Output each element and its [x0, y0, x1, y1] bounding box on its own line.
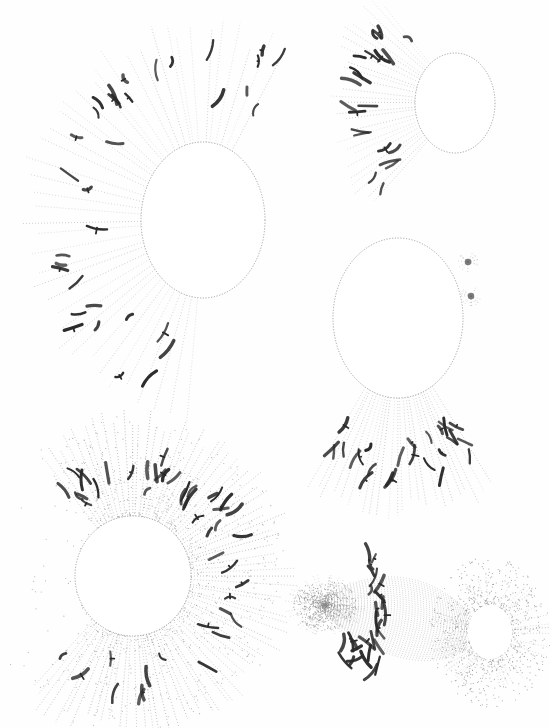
stipple-dot	[474, 591, 475, 592]
stipple-dot	[327, 618, 328, 619]
spindle-fiber	[40, 138, 146, 187]
stipple-dot	[187, 615, 188, 616]
stipple-dot	[471, 700, 472, 701]
stipple-dot	[171, 506, 172, 507]
stipple-dot	[313, 603, 314, 604]
stipple-dot	[533, 639, 534, 640]
spindle-fiber	[62, 265, 152, 328]
stipple-dot	[234, 576, 235, 577]
stipple-dot	[253, 587, 254, 588]
stipple-dot	[240, 485, 241, 486]
chromosome	[60, 653, 66, 658]
nucleus-outline	[415, 53, 495, 153]
stipple-dot	[542, 661, 543, 662]
stipple-dot	[503, 659, 504, 660]
spindle-fiber	[384, 6, 430, 64]
stipple-dot	[304, 603, 305, 604]
stipple-dot	[238, 599, 239, 600]
stipple-dot	[498, 696, 499, 697]
stipple-dot	[516, 605, 517, 606]
stipple-dot	[482, 675, 483, 676]
stipple-dot	[463, 608, 464, 609]
stipple-dot	[247, 642, 248, 643]
stipple-dot	[101, 467, 102, 468]
chromosome	[439, 468, 443, 486]
stipple-dot	[66, 446, 67, 447]
stipple-dot	[446, 650, 447, 651]
stipple-dot	[468, 642, 469, 643]
stipple-dot	[168, 716, 169, 717]
stipple-dot	[213, 594, 214, 595]
stipple-dot	[107, 633, 108, 634]
stipple-dot	[516, 619, 517, 620]
chromosome	[58, 483, 69, 497]
stipple-dot	[297, 594, 298, 595]
stipple-dot	[172, 493, 173, 494]
stipple-dot	[276, 591, 277, 592]
stipple-dot	[72, 460, 73, 461]
stipple-dot	[513, 624, 514, 625]
stipple-dot	[446, 674, 447, 675]
stipple-dot	[485, 694, 486, 695]
stipple-dot	[474, 598, 475, 599]
stipple-dot	[219, 597, 220, 598]
stipple-dot	[469, 611, 470, 612]
stipple-dot	[474, 586, 475, 587]
stipple-dot	[536, 662, 537, 663]
stipple-dot	[234, 515, 235, 516]
spindle-fiber	[498, 581, 512, 607]
stipple-dot	[252, 662, 253, 663]
stipple-dot	[206, 586, 207, 587]
stipple-dot	[471, 701, 472, 702]
stipple-dot	[67, 540, 68, 541]
stipple-dot	[212, 647, 213, 648]
stipple-dot	[502, 603, 503, 604]
stipple-dot	[309, 590, 310, 591]
stipple-dot	[212, 613, 213, 614]
stipple-dot	[117, 635, 118, 636]
stipple-dot	[119, 685, 120, 686]
stipple-dot	[198, 547, 199, 548]
stipple-dot	[514, 649, 515, 650]
stipple-dot	[518, 567, 519, 568]
stipple-dot	[333, 597, 334, 598]
stipple-dot	[310, 627, 311, 628]
stipple-dot	[470, 665, 471, 666]
stipple-dot	[305, 609, 306, 610]
stipple-dot	[197, 699, 198, 700]
stipple-dot	[483, 668, 484, 669]
stipple-dot	[116, 416, 117, 417]
stipple-dot	[521, 609, 522, 610]
stipple-dot	[316, 609, 317, 610]
stipple-dot	[81, 540, 82, 541]
stipple-dot	[86, 613, 87, 614]
stipple-dot	[176, 630, 177, 631]
stipple-dot	[502, 660, 503, 661]
stipple-dot	[452, 609, 453, 610]
spindle-fiber	[370, 22, 425, 70]
stipple-dot	[135, 694, 136, 695]
spindle-fiber	[182, 490, 268, 544]
stipple-dot	[196, 695, 197, 696]
chromosome	[231, 614, 242, 627]
chromosome	[213, 632, 229, 638]
stipple-dot	[227, 653, 228, 654]
stipple-dot	[43, 685, 44, 686]
spindle-fiber	[134, 636, 137, 728]
stipple-dot	[523, 584, 524, 585]
stipple-dot	[248, 654, 249, 655]
stipple-dot	[530, 641, 531, 642]
stipple-dot	[318, 615, 319, 616]
stipple-dot	[524, 633, 525, 634]
stipple-dot	[217, 454, 218, 455]
stipple-dot	[307, 585, 308, 586]
stipple-dot	[525, 652, 526, 653]
stipple-dot	[115, 489, 116, 490]
stipple-dot	[108, 508, 109, 509]
spindle-fiber	[189, 591, 286, 617]
chromosome	[155, 465, 157, 482]
stipple-dot	[332, 603, 333, 604]
stipple-dot	[273, 522, 274, 523]
stipple-dot	[255, 594, 256, 595]
spindle-fiber	[512, 633, 550, 634]
